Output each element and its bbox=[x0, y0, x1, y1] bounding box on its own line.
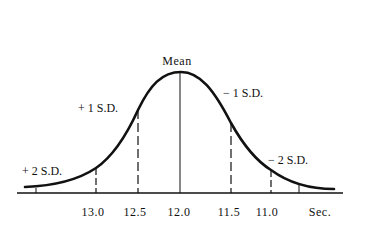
diagram-canvas: Mean + 1 S.D. − 1 S.D. + 2 S.D. − 2 S.D.… bbox=[0, 0, 365, 238]
plus-2-sd-label: + 2 S.D. bbox=[22, 164, 62, 178]
minus-1-sd-label: − 1 S.D. bbox=[223, 86, 263, 100]
plus-1-sd-label: + 1 S.D. bbox=[78, 101, 118, 115]
x-tick-label: 12.5 bbox=[124, 205, 147, 219]
x-tick-label: 13.0 bbox=[82, 205, 105, 219]
x-tick-label: 11.0 bbox=[256, 205, 279, 219]
x-axis-unit-label: Sec. bbox=[309, 205, 331, 219]
minus-2-sd-label: − 2 S.D. bbox=[268, 153, 308, 167]
x-tick-label: 11.5 bbox=[218, 205, 241, 219]
mean-label: Mean bbox=[162, 54, 192, 68]
normal-curve-diagram: Mean + 1 S.D. − 1 S.D. + 2 S.D. − 2 S.D.… bbox=[0, 0, 365, 238]
x-tick-label: 12.0 bbox=[168, 205, 191, 219]
